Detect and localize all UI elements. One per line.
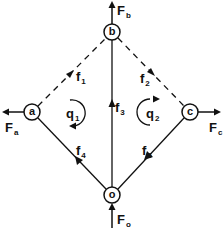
q1-arrow-icon [69, 123, 76, 130]
edge-label-f3: f3 [115, 99, 125, 115]
f4-sub: 4 [81, 151, 85, 160]
Fc-arrow-icon [214, 109, 221, 116]
Fa-sub: a [14, 128, 18, 137]
flow-label-Fo: Fo [117, 211, 131, 227]
flow-label-Fa: Fa [5, 119, 18, 135]
f5-sub: 5 [147, 151, 151, 160]
Fc-sub: c [218, 128, 222, 137]
edge-label-f2: f2 [140, 70, 150, 86]
edge-label-f4: f4 [76, 142, 86, 158]
f3-sub: 3 [120, 108, 124, 117]
Fa-arrow-icon [2, 109, 9, 116]
flow-label-Fc: Fc [209, 119, 222, 135]
q2-sub: 2 [155, 114, 159, 123]
f1-sub: 1 [81, 77, 85, 86]
node-c-label: c [182, 103, 198, 119]
edge-f4 [38, 118, 106, 189]
node-b-label: b [104, 23, 120, 39]
Fc-main: F [209, 120, 217, 135]
node-a-label: a [24, 103, 40, 119]
Fo-sub: o [126, 220, 131, 229]
f1-arrow-icon [66, 70, 74, 78]
Fb-sub: b [126, 11, 131, 20]
Fo-arrow-icon [109, 203, 116, 210]
edge-label-f5: f5 [142, 142, 152, 158]
Fb-main: F [117, 3, 125, 18]
f4-main: f [76, 143, 80, 158]
q2-main: q [146, 106, 154, 121]
f3-main: f [115, 100, 119, 115]
loop-label-q2: q2 [146, 105, 159, 121]
Fb-arrow-icon [109, 1, 116, 8]
q1-main: q [66, 106, 74, 121]
flow-label-Fb: Fb [117, 2, 131, 18]
f5-main: f [142, 143, 146, 158]
node-o-label: o [104, 186, 120, 202]
edge-label-f1: f1 [76, 68, 86, 84]
q1-sub: 1 [75, 114, 79, 123]
Fa-main: F [5, 120, 13, 135]
q2-arrow-icon [153, 96, 160, 103]
f1-main: f [76, 69, 80, 84]
f2-sub: 2 [145, 79, 149, 88]
Fo-main: F [117, 212, 125, 227]
loop-label-q1: q1 [66, 105, 79, 121]
f2-main: f [140, 71, 144, 86]
